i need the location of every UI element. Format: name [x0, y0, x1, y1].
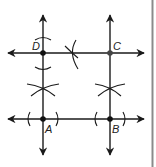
- label-b: B: [112, 123, 119, 135]
- point-b: [107, 116, 113, 122]
- point-a: [40, 116, 46, 122]
- point-c: [107, 50, 113, 56]
- label-c: C: [113, 40, 121, 52]
- square-construction-diagram: A B C D: [0, 0, 156, 167]
- label-d: D: [32, 40, 40, 52]
- label-a: A: [44, 123, 52, 135]
- point-d: [40, 50, 46, 56]
- arc-on-dc-cross: [65, 46, 78, 58]
